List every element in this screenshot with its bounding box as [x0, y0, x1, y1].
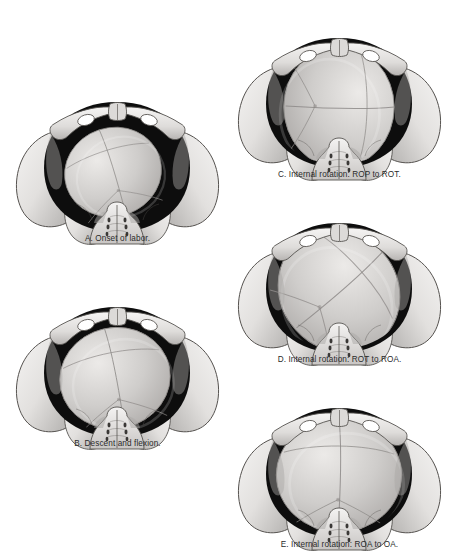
panel-e: E. Internal rotation: ROA to OA. — [232, 384, 447, 554]
labor-mechanism-figure: A. Onset of labor. — [0, 0, 459, 554]
panel-b: B. Descent and flexion. — [10, 283, 225, 458]
pelvis-illustration-c — [232, 14, 447, 189]
panel-d: D. Internal rotation: ROT to ROA. — [232, 199, 447, 374]
panel-caption-b: B. Descent and flexion. — [10, 439, 225, 448]
panel-a: A. Onset of labor. — [10, 78, 225, 253]
panel-caption-d: D. Internal rotation: ROT to ROA. — [232, 355, 447, 364]
panel-caption-a: A. Onset of labor. — [10, 234, 225, 243]
pelvis-illustration-e — [232, 384, 447, 554]
pelvis-illustration-d — [232, 199, 447, 374]
panel-caption-e: E. Internal rotation: ROA to OA. — [232, 540, 447, 549]
panel-caption-c: C. Internal rotation: ROP to ROT. — [232, 170, 447, 179]
panel-c: C. Internal rotation: ROP to ROT. — [232, 14, 447, 189]
pelvis-illustration-b — [10, 283, 225, 458]
pelvis-illustration-a — [10, 78, 225, 253]
